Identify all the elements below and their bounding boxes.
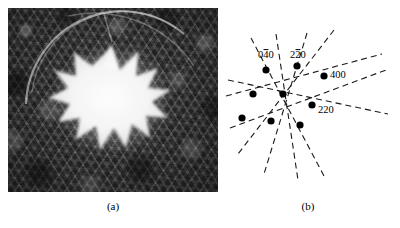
- spot-lower-l: [238, 114, 245, 121]
- caption-panel-b: (b): [224, 200, 392, 212]
- panel-a-micrograph: [8, 8, 218, 192]
- spot-lower-m: [267, 117, 274, 124]
- trace-6: [230, 70, 386, 128]
- label-220: 220: [318, 104, 334, 115]
- figure-root: 040220400220 (a) (b): [0, 0, 400, 228]
- spot-040: [262, 66, 269, 73]
- micrograph-image: [8, 8, 218, 192]
- spot-center: [279, 90, 286, 97]
- spot-220: [308, 101, 315, 108]
- micrograph-vignette: [8, 8, 218, 192]
- caption-panel-a: (a): [8, 200, 218, 212]
- trace-lines-group: [226, 30, 388, 180]
- spot-400: [320, 72, 327, 79]
- spot-lower-r: [296, 121, 303, 128]
- label-400: 400: [330, 69, 346, 80]
- spot-labels-group: 040220400220: [258, 49, 346, 115]
- panel-b-diffraction-schematic: 040220400220: [224, 8, 392, 192]
- label-040: 040: [258, 49, 274, 60]
- spot-left: [249, 90, 256, 97]
- diffraction-pattern-svg: 040220400220: [224, 8, 392, 192]
- label-220bar: 220: [290, 49, 306, 60]
- spot-220bar: [293, 62, 300, 69]
- trace-5: [226, 54, 382, 96]
